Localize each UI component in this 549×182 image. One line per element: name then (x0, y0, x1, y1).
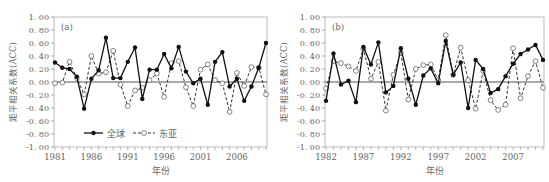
x-tick-label: 1981 (44, 152, 66, 162)
data-point (391, 84, 395, 88)
data-point (511, 46, 516, 51)
data-point (503, 102, 508, 107)
y-tick-label: 0. 00 (29, 78, 49, 87)
y-tick-label: -0. 20 (297, 91, 320, 100)
data-point (249, 65, 254, 70)
data-point (96, 68, 100, 72)
data-point (154, 71, 159, 76)
chart-panel-0: 1. 000. 800. 600. 400. 200. 00-0. 20-0. … (8, 13, 268, 176)
data-point (242, 99, 246, 103)
data-point (133, 88, 138, 93)
data-point (473, 58, 477, 62)
data-point (339, 82, 343, 86)
data-point (125, 104, 130, 109)
x-tick-label: 2001 (190, 152, 212, 162)
data-point (118, 76, 122, 80)
data-point (466, 78, 471, 83)
y-tick-label: 0. 80 (300, 26, 320, 35)
data-point (235, 77, 239, 81)
data-point (496, 87, 500, 91)
data-point (89, 54, 94, 59)
y-tick-label: -0. 40 (26, 104, 49, 113)
line-charts: 1. 000. 800. 600. 400. 200. 00-0. 20-0. … (0, 0, 549, 182)
data-point (75, 75, 79, 79)
data-point (67, 67, 71, 71)
data-point (429, 66, 433, 70)
data-point (399, 46, 403, 50)
y-tick-label: 0. 20 (29, 65, 49, 74)
data-point (184, 85, 189, 90)
data-point (60, 66, 64, 70)
data-point (264, 92, 269, 97)
data-point (518, 52, 522, 56)
data-point (458, 60, 462, 64)
data-point (496, 108, 501, 113)
y-tick-label: 1. 00 (300, 13, 320, 22)
legend: 全球东亚 (84, 128, 177, 139)
y-tick-label: -0. 80 (26, 130, 49, 139)
panel-label: (b) (332, 22, 344, 32)
data-point (111, 48, 116, 53)
data-point (339, 61, 344, 66)
legend-label-east-asia: 东亚 (159, 128, 177, 139)
data-point (406, 77, 410, 81)
y-tick-label: 0. 20 (300, 65, 320, 74)
data-point (198, 77, 202, 81)
data-point (511, 62, 515, 66)
data-point (324, 99, 328, 103)
data-point (466, 106, 470, 110)
y-tick-label: -0. 40 (297, 104, 320, 113)
data-point (82, 92, 87, 97)
data-point (60, 80, 65, 85)
data-point (481, 67, 485, 71)
x-tick-label: 1997 (427, 152, 449, 162)
data-point (488, 91, 492, 95)
data-point (458, 45, 463, 50)
data-point (384, 90, 388, 94)
data-point (541, 85, 546, 90)
data-point (346, 64, 351, 69)
data-point (368, 76, 373, 81)
y-axis-label: 距平相关系数(ACC) (8, 42, 18, 122)
data-point (140, 97, 144, 101)
data-point (533, 59, 538, 64)
data-point (376, 59, 381, 64)
data-point (376, 40, 380, 44)
data-point (488, 98, 493, 103)
x-axis-label: 年份 (152, 165, 170, 176)
data-point (444, 39, 448, 43)
data-point (227, 110, 232, 115)
data-point (413, 67, 418, 72)
data-point (518, 96, 523, 101)
series-line-east-asia (326, 35, 543, 110)
data-point (111, 76, 115, 80)
y-tick-label: -0. 80 (297, 130, 320, 139)
series-line-global (326, 41, 543, 108)
data-point (205, 62, 210, 67)
data-point (220, 81, 225, 86)
data-point (184, 69, 188, 73)
data-point (162, 95, 167, 100)
x-tick-label: 1996 (153, 152, 175, 162)
y-tick-label: -0. 20 (26, 91, 49, 100)
data-point (227, 84, 231, 88)
y-tick-label: -0. 60 (26, 117, 49, 126)
data-point (414, 103, 418, 107)
data-point (89, 77, 93, 81)
data-point (53, 81, 58, 86)
y-tick-label: -1. 00 (26, 143, 49, 152)
y-tick-label: 0. 40 (29, 52, 49, 61)
data-point (369, 62, 373, 66)
data-point (220, 50, 224, 54)
legend-label-global: 全球 (107, 128, 125, 139)
data-point (176, 59, 181, 64)
x-tick-label: 2006 (226, 152, 248, 162)
x-tick-label: 2007 (502, 152, 524, 162)
x-tick-label: 1991 (117, 152, 139, 162)
data-point (162, 52, 166, 56)
data-point (213, 60, 217, 64)
data-point (526, 47, 530, 51)
x-tick-label: 1986 (81, 152, 103, 162)
y-tick-label: 0. 60 (29, 39, 49, 48)
data-point (451, 73, 455, 77)
